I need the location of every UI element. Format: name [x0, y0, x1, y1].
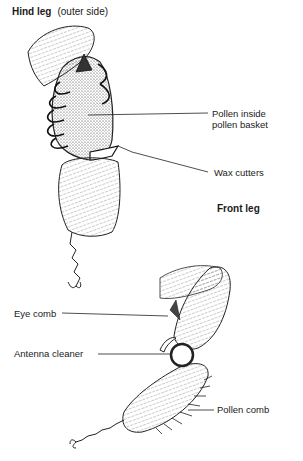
hind-leg-subtitle: (outer side): [57, 6, 108, 17]
pollen-basket-label: Pollen inside pollen basket: [212, 108, 268, 130]
eye-comb: [170, 300, 180, 320]
wax-cutters-label: Wax cutters: [214, 167, 264, 178]
front-leg-basitarsus: [123, 364, 208, 433]
hind-leg-title-text: Hind leg: [12, 6, 51, 17]
hind-leg-title: Hind leg(outer side): [12, 6, 108, 17]
pollen-basket-label-line1: Pollen inside: [212, 108, 268, 119]
pollen-basket: [52, 57, 113, 160]
hind-leg-drawing: [28, 26, 120, 288]
leader-eye-comb: [62, 313, 168, 316]
antenna-cleaner: [171, 344, 193, 366]
hind-leg-basitarsus: [59, 158, 120, 236]
antenna-cleaner-label: Antenna cleaner: [14, 348, 83, 359]
front-leg-title: Front leg: [217, 203, 260, 214]
bee-legs-illustration: [0, 0, 303, 461]
leader-wax-cutters: [118, 146, 208, 172]
pollen-comb-label: Pollen comb: [217, 404, 269, 415]
front-leg-drawing: [70, 266, 230, 448]
pollen-basket-label-line2: pollen basket: [212, 119, 268, 130]
eye-comb-label: Eye comb: [14, 308, 56, 319]
